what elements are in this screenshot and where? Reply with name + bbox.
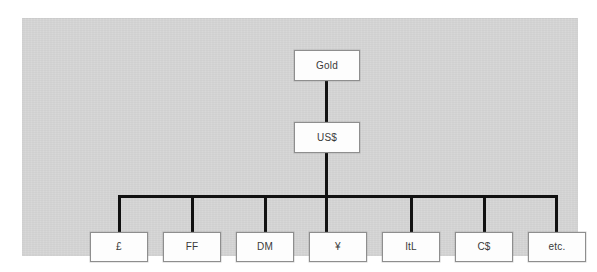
node-ff: FF (163, 232, 221, 262)
connector-bus-to-itl (410, 195, 413, 233)
node-usd: US$ (294, 122, 360, 153)
node-jpy-label: ¥ (335, 242, 341, 252)
connector-bus-to-cad (483, 195, 486, 233)
node-gold: Gold (294, 50, 360, 81)
node-etc: etc. (528, 232, 586, 262)
node-ff-label: FF (186, 242, 199, 252)
node-gbp: £ (90, 232, 148, 262)
node-dm: DM (236, 232, 294, 262)
node-gold-label: Gold (316, 60, 338, 70)
node-itl: ItL (382, 232, 440, 262)
node-cad: C$ (455, 232, 513, 262)
diagram-canvas: Gold US$ £ FF DM ¥ ItL C$ etc. (0, 0, 597, 272)
diagram-panel: Gold US$ £ FF DM ¥ ItL C$ etc. (22, 18, 578, 256)
connector-bus-to-gbp (118, 195, 121, 233)
node-jpy: ¥ (309, 232, 367, 262)
node-etc-label: etc. (549, 242, 566, 252)
node-usd-label: US$ (317, 132, 337, 142)
connector-bus-to-dm (264, 195, 267, 233)
node-dm-label: DM (257, 242, 273, 252)
node-cad-label: C$ (477, 242, 490, 252)
connector-gold-to-usd (325, 80, 328, 123)
connector-bus-to-etc (555, 195, 558, 233)
connector-horizontal-bus (118, 195, 557, 198)
node-itl-label: ItL (405, 242, 417, 252)
connector-usd-to-bus (325, 152, 328, 198)
connector-bus-to-jpy (325, 195, 328, 233)
node-gbp-label: £ (116, 242, 122, 252)
connector-bus-to-ff (191, 195, 194, 233)
